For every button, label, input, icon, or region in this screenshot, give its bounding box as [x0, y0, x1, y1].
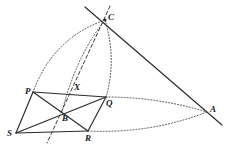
arc-C-to-B	[62, 20, 105, 112]
geometry-figure: CPXQBSRA	[0, 0, 226, 150]
arc-C-to-P	[33, 20, 105, 92]
point-label-x: X	[74, 83, 80, 92]
point-label-a: A	[210, 105, 216, 114]
point-label-c: C	[108, 13, 114, 22]
arc-C-to-Q	[105, 20, 111, 97]
point-label-s: S	[7, 129, 12, 138]
solid-lines-group	[16, 7, 222, 133]
figure-canvas	[0, 0, 226, 150]
dashed-line-C-X-B	[47, 6, 110, 143]
point-marker-c	[103, 18, 106, 21]
point-label-q: Q	[106, 99, 113, 108]
side-QR	[88, 97, 106, 131]
dashed-lines-group	[47, 6, 110, 143]
diagonal-SQ	[16, 97, 106, 133]
point-label-p: P	[25, 87, 31, 96]
point-markers-group	[103, 18, 106, 21]
arc-R-to-A	[88, 112, 207, 131]
diagonal-PR	[33, 92, 88, 131]
point-label-r: R	[85, 134, 91, 143]
point-label-b: B	[62, 114, 68, 123]
